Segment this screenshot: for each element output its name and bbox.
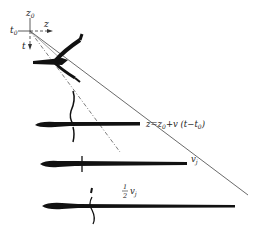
z-axis-arrow-icon bbox=[47, 29, 53, 33]
z0-label: z0 bbox=[25, 8, 35, 19]
snapshot-3 bbox=[40, 156, 187, 172]
snapshot-2 bbox=[35, 91, 140, 142]
t-axis-arrow-icon bbox=[28, 44, 32, 50]
jet-evolution-diagram: z0 t0 z t z=z0+v (t−t0) vj 1 2 vj bbox=[0, 0, 265, 237]
half-velocity-line bbox=[30, 31, 120, 152]
front-velocity-label: vj bbox=[191, 154, 198, 166]
tip-line bbox=[30, 31, 62, 60]
trajectory-equation: z=z0+v (t−t0) bbox=[145, 119, 205, 130]
svg-text:2: 2 bbox=[122, 192, 127, 200]
t-axis-label: t bbox=[22, 41, 26, 51]
snapshot-1 bbox=[33, 34, 82, 82]
z-axis-label: z bbox=[43, 19, 49, 29]
snapshot-4 bbox=[42, 188, 235, 224]
half-velocity-label: 1 2 vj bbox=[122, 183, 137, 200]
svg-text:vj: vj bbox=[130, 186, 137, 198]
t0-label: t0 bbox=[10, 25, 18, 36]
svg-text:1: 1 bbox=[123, 183, 127, 191]
